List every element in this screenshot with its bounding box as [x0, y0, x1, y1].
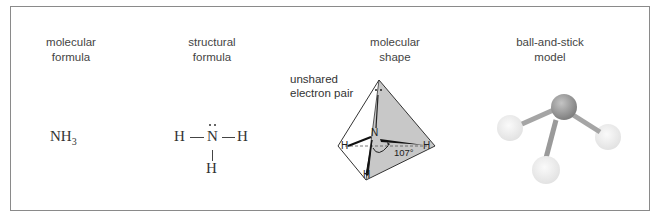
ball-and-stick-model: [0, 0, 663, 223]
